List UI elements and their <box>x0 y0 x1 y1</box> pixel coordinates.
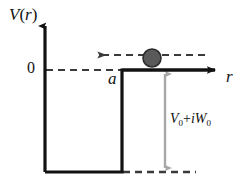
depth-label-v-sub: 0 <box>179 118 184 128</box>
potential-diagram-canvas <box>0 0 247 184</box>
particle-circle <box>143 49 161 67</box>
v-axis-label-close-paren: ) <box>32 5 38 24</box>
depth-label-w-sub: 0 <box>207 118 212 128</box>
v-axis-label: V(r) <box>9 6 37 23</box>
v-axis-label-arg: r <box>25 5 32 24</box>
depth-label-v: V <box>170 111 179 126</box>
v-axis-label-v: V <box>9 5 19 24</box>
well-radius-label: a <box>108 70 117 87</box>
depth-label-operator: + <box>183 111 191 126</box>
zero-tick-label: 0 <box>27 60 35 76</box>
r-axis-label: r <box>226 68 233 85</box>
depth-label-w: W <box>195 111 207 126</box>
potential-depth-label: V0+iW0 <box>170 112 211 126</box>
potential-well-figure: V(r) 0 a r V0+iW0 <box>0 0 247 184</box>
